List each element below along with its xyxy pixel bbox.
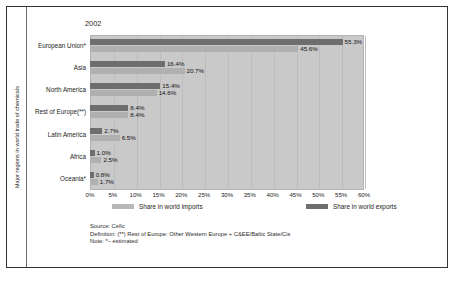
bar-imports <box>90 179 98 185</box>
legend-item-imports: Share in world imports <box>112 203 203 210</box>
bar-imports <box>90 135 120 141</box>
chart-title: 2002 <box>85 19 101 28</box>
x-axis-tick: 60% <box>358 191 370 198</box>
bar-group: European Union*55.3%45.6% <box>90 35 364 57</box>
note-definition: Definition: (**) Rest of Europe: Other W… <box>90 231 420 239</box>
category-label: North America <box>46 86 86 93</box>
category-label: Oceania* <box>60 175 86 182</box>
legend-swatch-exports-icon <box>306 204 328 209</box>
x-axis-tick: 15% <box>152 191 164 198</box>
y-axis-title: Major regions in world trade of chemical… <box>10 7 24 267</box>
bar-exports <box>90 83 160 89</box>
chart-figure: Major regions in world trade of chemical… <box>6 6 448 268</box>
note-estimated: Note: *– estimated <box>90 238 420 246</box>
bar-value-label: 0.8% <box>96 172 110 178</box>
bar-rows: European Union*55.3%45.6%Asia16.4%20.7%N… <box>90 35 364 190</box>
bar-imports <box>90 112 128 118</box>
bar-exports <box>90 61 165 67</box>
legend-label-imports: Share in world imports <box>139 203 203 210</box>
y-axis-title-text: Major regions in world trade of chemical… <box>14 86 20 188</box>
bar-value-label: 2.7% <box>104 128 118 134</box>
x-axis-tick: 25% <box>198 191 210 198</box>
bar-value-label: 20.7% <box>187 68 205 74</box>
bar-group: North America15.4%14.6% <box>90 79 364 101</box>
x-axis-tick: 45% <box>289 191 301 198</box>
bar-value-label: 14.6% <box>159 90 177 96</box>
bar-imports <box>90 46 298 52</box>
bar-value-label: 55.3% <box>345 39 363 45</box>
bar-value-label: 45.6% <box>300 46 318 52</box>
x-axis-tick: 40% <box>267 191 279 198</box>
bar-value-label: 16.4% <box>167 61 185 67</box>
bar-value-label: 8.4% <box>130 112 144 118</box>
bar-exports <box>90 172 94 178</box>
bar-exports <box>90 128 102 134</box>
bar-value-label: 1.7% <box>100 179 114 185</box>
x-axis-tick: 10% <box>130 191 142 198</box>
legend-label-exports: Share in world exports <box>333 203 397 210</box>
chart-legend: Share in world imports Share in world ex… <box>90 203 364 215</box>
bar-imports <box>90 68 185 74</box>
x-axis-tick: 35% <box>244 191 256 198</box>
bar-exports <box>90 105 128 111</box>
gridline <box>365 36 366 189</box>
bar-imports <box>90 90 157 96</box>
bar-imports <box>90 157 101 163</box>
x-axis: 0%5%10%15%20%25%30%35%40%45%50%55%60% <box>90 191 364 201</box>
bar-group: Asia16.4%20.7% <box>90 57 364 79</box>
note-source: Source: Cefic <box>90 223 420 231</box>
legend-item-exports: Share in world exports <box>306 203 397 210</box>
legend-swatch-imports-icon <box>112 204 134 209</box>
y-axis-divider <box>26 7 27 267</box>
bar-value-label: 1.0% <box>97 150 111 156</box>
category-label: Asia <box>74 64 86 71</box>
category-label: Latin America <box>48 131 86 138</box>
bar-value-label: 2.5% <box>103 157 117 163</box>
category-label: European Union* <box>38 42 86 49</box>
x-axis-tick: 5% <box>108 191 117 198</box>
x-axis-tick: 30% <box>221 191 233 198</box>
bar-value-label: 6.5% <box>122 135 136 141</box>
bar-group: Rest of Europe(**)8.4%8.4% <box>90 101 364 123</box>
bar-group: Oceania*0.8%1.7% <box>90 168 364 190</box>
category-label: Africa <box>70 153 86 160</box>
bar-group: Africa1.0%2.5% <box>90 146 364 168</box>
bar-exports <box>90 150 95 156</box>
x-axis-tick: 0% <box>86 191 95 198</box>
x-axis-tick: 50% <box>312 191 324 198</box>
x-axis-tick: 20% <box>175 191 187 198</box>
chart-notes: Source: Cefic Definition: (**) Rest of E… <box>90 223 420 246</box>
x-axis-tick: 55% <box>335 191 347 198</box>
bar-group: Latin America2.7%6.5% <box>90 124 364 146</box>
category-label: Rest of Europe(**) <box>35 108 86 115</box>
